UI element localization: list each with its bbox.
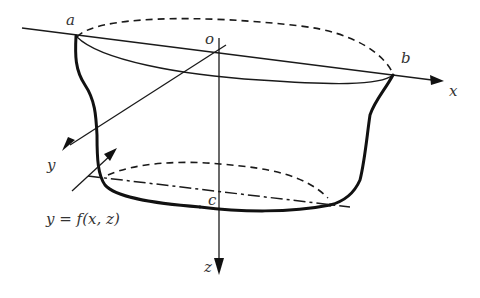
z-axis-arrowhead bbox=[214, 258, 224, 275]
label-y: y bbox=[46, 156, 56, 174]
right-profile-thick bbox=[330, 75, 393, 205]
label-z: z bbox=[203, 258, 212, 276]
surface-equation-label: y = f(x, z) bbox=[45, 210, 120, 228]
top-rim-dashed-back bbox=[77, 19, 393, 74]
y-axis-arrowhead bbox=[62, 137, 75, 151]
top-rim-front bbox=[77, 37, 393, 84]
bottom-rim-dashed-back bbox=[108, 162, 328, 198]
label-b: b bbox=[401, 49, 411, 67]
surface-diagram: a o b x y c z y = f(x, z) bbox=[0, 0, 480, 298]
label-x: x bbox=[449, 82, 458, 100]
label-a: a bbox=[66, 11, 75, 29]
label-o: o bbox=[205, 30, 214, 48]
label-c: c bbox=[208, 191, 217, 209]
x-axis bbox=[22, 28, 432, 80]
x-axis-arrowhead bbox=[430, 75, 444, 85]
y-axis bbox=[70, 45, 226, 145]
